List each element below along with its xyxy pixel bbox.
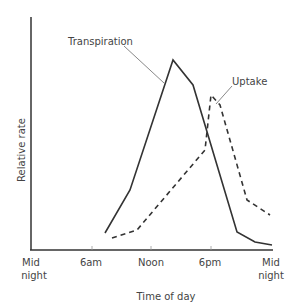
tick-label-6pm: 6pm: [199, 257, 221, 268]
uptake-leader: [216, 86, 232, 104]
transpiration-line: [105, 60, 272, 245]
tick-label-6am: 6am: [80, 257, 102, 268]
uptake-label: Uptake: [232, 76, 267, 87]
tick-label-midnight-end-1: Mid: [262, 257, 280, 268]
x-axis-label: Time of day: [136, 291, 196, 302]
uptake-line: [112, 95, 270, 238]
tick-label-midnight-start-2: night: [21, 270, 47, 281]
transpiration-label: Transpiration: [67, 36, 133, 47]
transpiration-leader: [124, 46, 164, 83]
tick-label-midnight-start-1: Mid: [22, 257, 40, 268]
chart: Transpiration Uptake Relative rate Mid n…: [0, 0, 301, 308]
tick-label-midnight-end-2: night: [258, 270, 284, 281]
y-axis-label: Relative rate: [16, 118, 27, 182]
tick-label-noon: Noon: [138, 257, 164, 268]
